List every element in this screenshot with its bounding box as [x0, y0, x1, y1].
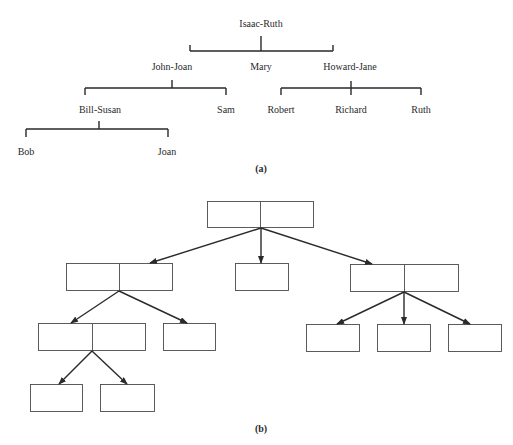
box-right-couple [351, 265, 459, 292]
bracket-john-joan [85, 80, 226, 95]
box-grandchild-couple [39, 324, 146, 351]
diagram-b: (b) [31, 202, 502, 436]
box-grandchild-single [164, 324, 216, 351]
node-robert: Robert [267, 104, 294, 115]
box-right-child-2 [378, 325, 431, 352]
box-right-child-3 [449, 325, 502, 352]
node-richard: Richard [335, 104, 367, 115]
node-ruth: Ruth [411, 104, 430, 115]
box-right-child-1 [307, 325, 360, 352]
node-john-joan: John-Joan [152, 61, 193, 72]
arrow-to-great-grandchild-1 [59, 351, 92, 384]
box-middle-single [236, 264, 289, 291]
node-joan: Joan [158, 146, 176, 157]
bracket-isaac-ruth [190, 36, 333, 51]
caption-a: (a) [255, 163, 267, 175]
arrow-root-to-right [261, 228, 372, 264]
caption-b: (b) [255, 423, 267, 435]
family-tree-figure: Isaac-Ruth John-Joan Mary Howard-Jane Bi… [0, 0, 513, 445]
box-left-couple [67, 264, 173, 291]
node-bob: Bob [18, 146, 35, 157]
node-mary: Mary [250, 61, 272, 72]
bracket-howard-jane [281, 81, 421, 95]
arrow-right-to-child-3 [404, 292, 470, 324]
arrow-left-to-grandchild-single [119, 291, 187, 323]
arrow-right-to-child-1 [337, 292, 404, 324]
box-great-grandchild-1 [31, 385, 83, 412]
bracket-bill-susan [26, 121, 168, 137]
node-bill-susan: Bill-Susan [79, 104, 121, 115]
node-isaac-ruth: Isaac-Ruth [239, 18, 282, 29]
arrow-root-to-left [150, 228, 261, 263]
box-great-grandchild-2 [101, 385, 155, 412]
arrow-left-to-grandchild-couple [71, 291, 119, 323]
node-howard-jane: Howard-Jane [323, 61, 377, 72]
box-root-couple [208, 202, 314, 228]
diagram-a: Isaac-Ruth John-Joan Mary Howard-Jane Bi… [18, 18, 431, 175]
node-sam: Sam [217, 104, 235, 115]
arrow-to-great-grandchild-2 [92, 351, 127, 384]
